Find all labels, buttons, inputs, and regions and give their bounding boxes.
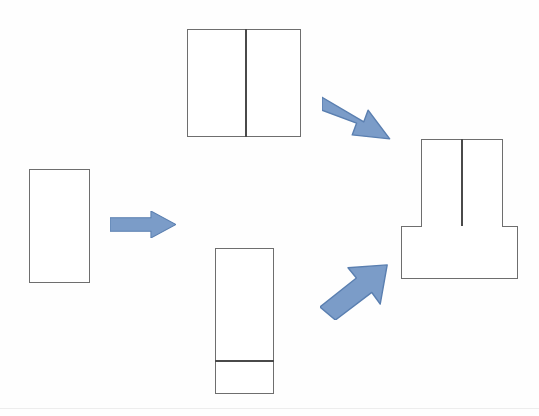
source-blank-rectangle <box>29 169 90 283</box>
arrow-blank-to-parts <box>110 211 176 238</box>
arrow-wide-part-to-assembly <box>322 92 394 144</box>
arrow-down-right-glyph <box>322 97 390 139</box>
tall-stepped-rectangle-horizontal-divider <box>215 360 274 362</box>
tall-stepped-rectangle <box>215 248 274 394</box>
wide-split-rectangle <box>187 29 301 137</box>
arrow-tall-part-to-assembly <box>320 262 390 320</box>
assembly-upper-block <box>421 139 503 227</box>
arrow-right-glyph <box>110 211 176 238</box>
scan-line-artifact <box>0 408 539 409</box>
assembly-seam-cover <box>422 226 502 228</box>
assembly-upper-block-vertical-divider <box>461 139 463 227</box>
wide-split-rectangle-vertical-divider <box>245 29 247 137</box>
assembly-diagram-canvas <box>0 0 539 416</box>
assembly-base-block <box>401 226 518 279</box>
arrow-up-right-glyph <box>320 265 387 320</box>
